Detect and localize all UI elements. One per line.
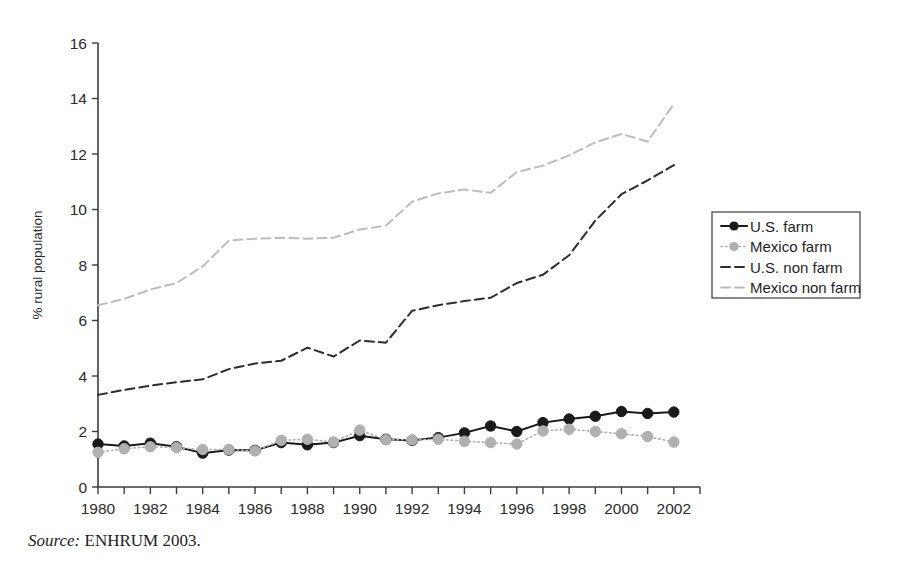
data-point	[564, 414, 574, 424]
x-tick-label: 1986	[238, 500, 272, 517]
data-point	[642, 431, 652, 441]
source-caption: Source: ENHRUM 2003.	[28, 531, 201, 551]
line-chart: 0246810121416198019821984198619881990199…	[0, 0, 897, 575]
legend-marker-1	[729, 221, 738, 230]
data-point	[119, 444, 129, 454]
data-point	[93, 447, 103, 457]
y-tick-label: 10	[70, 201, 88, 218]
data-point	[564, 424, 574, 434]
data-point	[512, 439, 522, 449]
data-point	[171, 442, 181, 452]
data-point	[407, 435, 417, 445]
x-axis-ticks: 1980198219841986198819901992199419961998…	[81, 487, 700, 517]
source-value: ENHRUM 2003.	[85, 531, 201, 550]
data-point	[590, 411, 600, 421]
data-point	[302, 434, 312, 444]
data-point	[485, 437, 495, 447]
series-4	[98, 104, 674, 305]
y-axis-ticks: 0246810121416	[70, 35, 98, 496]
series-line-u-s-non-farm	[98, 165, 674, 395]
data-point	[642, 408, 652, 418]
data-point	[669, 407, 679, 417]
data-point	[198, 444, 208, 454]
data-point	[616, 429, 626, 439]
y-axis-title: % rural population	[30, 211, 45, 320]
legend-label-3: U.S. non farm	[750, 259, 843, 276]
x-tick-label: 1980	[81, 500, 116, 517]
data-point	[224, 444, 234, 454]
data-point	[538, 426, 548, 436]
data-point	[512, 426, 522, 436]
y-tick-label: 4	[78, 368, 87, 385]
data-point	[250, 446, 260, 456]
data-point	[459, 436, 469, 446]
data-point	[616, 406, 626, 416]
y-tick-label: 0	[78, 479, 87, 496]
y-tick-label: 14	[70, 90, 88, 107]
y-tick-label: 6	[78, 312, 87, 329]
data-point	[381, 435, 391, 445]
legend-marker-2	[729, 242, 738, 251]
x-tick-label: 2000	[604, 500, 639, 517]
legend-label-4: Mexico non farm	[750, 279, 861, 296]
chart-axes	[98, 43, 700, 487]
x-tick-label: 1996	[500, 500, 534, 517]
x-tick-label: 1992	[395, 500, 429, 517]
x-tick-label: 1988	[290, 500, 324, 517]
data-point	[433, 434, 443, 444]
data-point	[276, 435, 286, 445]
source-label: Source:	[28, 531, 80, 550]
legend-label-1: U.S. farm	[750, 218, 813, 235]
x-tick-label: 1982	[133, 500, 167, 517]
x-tick-label: 1990	[342, 500, 377, 517]
x-tick-label: 1998	[552, 500, 586, 517]
data-point	[485, 421, 495, 431]
chart-figure: 0246810121416198019821984198619881990199…	[0, 0, 897, 575]
axis-lines	[98, 43, 700, 487]
x-tick-label: 2002	[657, 500, 691, 517]
y-tick-label: 2	[78, 423, 87, 440]
data-point	[590, 426, 600, 436]
chart-legend: U.S. farmMexico farmU.S. non farmMexico …	[712, 212, 861, 298]
y-tick-label: 12	[70, 146, 87, 163]
y-tick-label: 16	[70, 35, 87, 52]
series-3	[98, 165, 674, 395]
series-line-mexico-non-farm	[98, 104, 674, 305]
data-point	[328, 437, 338, 447]
legend-label-2: Mexico farm	[750, 238, 832, 255]
data-point	[145, 442, 155, 452]
series-line-u-s-farm	[98, 412, 674, 454]
y-tick-label: 8	[78, 257, 87, 274]
series-2	[93, 424, 679, 457]
data-point	[355, 425, 365, 435]
x-tick-label: 1994	[447, 500, 482, 517]
x-tick-label: 1984	[185, 500, 220, 517]
data-point	[669, 437, 679, 447]
